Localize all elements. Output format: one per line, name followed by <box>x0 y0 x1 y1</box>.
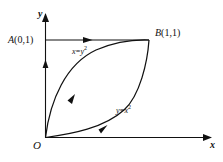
curve-upper-equation: x=y <box>72 47 84 56</box>
segment-a-to-b-arrowhead <box>83 37 93 43</box>
figure-canvas <box>0 0 223 162</box>
point-b-coords: (1,1) <box>161 27 180 38</box>
curve-lower-label: y=x2 <box>116 107 131 115</box>
curve-lower-arrowhead <box>99 125 108 134</box>
point-a-coords: (0,1) <box>14 34 33 45</box>
curve-upper-arrowhead <box>68 94 76 104</box>
y-axis-direction-arrowhead <box>43 60 49 69</box>
curve-upper-exponent: 2 <box>84 45 87 51</box>
curve-lower-equation: y=x <box>116 106 128 115</box>
origin-label: O <box>33 140 41 151</box>
curve-lower-exponent: 2 <box>128 104 131 110</box>
curve-upper-x-equals-y-squared <box>46 40 150 138</box>
point-b-label: B(1,1) <box>155 28 180 38</box>
y-axis-label: y <box>38 9 42 19</box>
curve-lower-y-equals-x-squared <box>46 40 150 138</box>
math-figure: y x O A(0,1) B(1,1) x=y2 y=x2 <box>0 0 223 162</box>
curve-upper-label: x=y2 <box>72 48 87 56</box>
x-axis-label: x <box>210 140 215 150</box>
point-a-label: A(0,1) <box>8 35 33 45</box>
